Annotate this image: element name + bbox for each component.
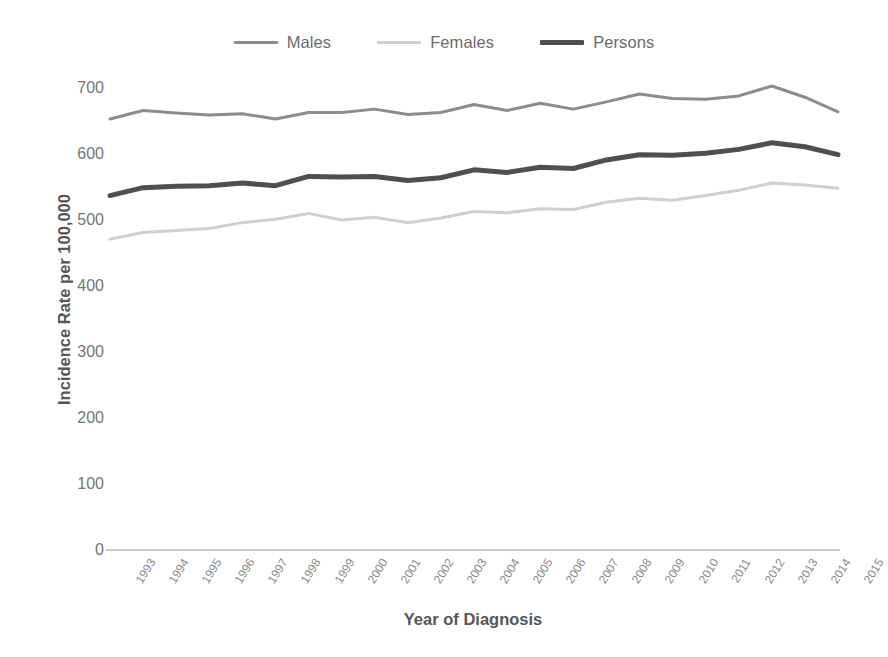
x-tick-label: 2004 xyxy=(497,556,523,586)
x-tick-label: 1994 xyxy=(166,556,192,586)
x-axis-tick-labels: 1993199419951996199719981999200020012002… xyxy=(0,0,888,657)
x-tick-label: 2001 xyxy=(397,556,423,586)
x-tick-label: 1996 xyxy=(232,556,258,586)
x-tick-label: 2010 xyxy=(695,556,721,586)
x-tick-label: 2013 xyxy=(794,556,820,586)
plot-area: 0100200300400500600700 19931994199519961… xyxy=(0,0,888,657)
x-tick-label: 2006 xyxy=(563,556,589,586)
x-tick-label: 1997 xyxy=(265,556,291,586)
incidence-rate-line-chart: MalesFemalesPersons Incidence Rate per 1… xyxy=(0,0,888,657)
x-tick-label: 2003 xyxy=(463,556,489,586)
x-tick-label: 2012 xyxy=(761,556,787,586)
x-tick-label: 2007 xyxy=(596,556,622,586)
x-tick-label: 2005 xyxy=(530,556,556,586)
x-tick-label: 2009 xyxy=(662,556,688,586)
x-tick-label: 1998 xyxy=(298,556,324,586)
x-tick-label: 1995 xyxy=(199,556,225,586)
x-tick-label: 2008 xyxy=(629,556,655,586)
x-axis-title: Year of Diagnosis xyxy=(108,610,838,629)
x-tick-label: 2000 xyxy=(364,556,390,586)
x-tick-label: 2002 xyxy=(430,556,456,586)
x-tick-label: 2011 xyxy=(728,556,754,585)
x-tick-label: 2014 xyxy=(827,556,853,586)
x-tick-label: 2015 xyxy=(861,556,887,586)
x-tick-label: 1999 xyxy=(331,556,357,586)
x-tick-label: 1993 xyxy=(133,556,159,586)
